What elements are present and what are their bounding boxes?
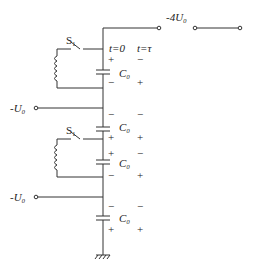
polarity-sign: − (137, 200, 143, 212)
polarity-sign: + (108, 53, 114, 65)
load-terminal-right (238, 26, 242, 30)
output-terminal (157, 26, 161, 30)
polarity-sign: + (108, 147, 114, 159)
ground-hatch (107, 255, 110, 259)
load-terminal-left (193, 26, 197, 30)
capacitor-label: C₀ (119, 212, 130, 224)
inductor-coil (55, 56, 58, 81)
polarity-sign: + (137, 131, 143, 143)
inductor-coil (55, 145, 58, 170)
ground-hatch (95, 255, 98, 259)
polarity-sign: + (137, 223, 143, 235)
polarity-sign: − (108, 200, 114, 212)
circuit-diagram: -4U₀ -U₀ -U₀ S₁ S₁ t=0 t=τ C₀ C₀ C₀ C₀ +… (0, 0, 253, 276)
ground-hatch (103, 255, 106, 259)
input-terminal (34, 195, 38, 199)
polarity-sign: − (137, 53, 143, 65)
input-voltage-label: -U₀ (10, 102, 26, 114)
capacitor-label: C₀ (119, 121, 130, 133)
input-voltage-label: -U₀ (10, 191, 26, 203)
polarity-sign: − (137, 147, 143, 159)
switch-label: S₁ (66, 124, 76, 136)
capacitor-label: C₀ (119, 157, 130, 169)
polarity-sign: − (108, 76, 114, 88)
switch-label: S₁ (66, 34, 76, 46)
output-voltage-label: -4U₀ (166, 11, 187, 23)
polarity-sign: + (108, 131, 114, 143)
polarity-sign: + (137, 169, 143, 181)
polarity-sign: + (108, 223, 114, 235)
polarity-sign: − (108, 169, 114, 181)
polarity-sign: + (137, 76, 143, 88)
polarity-sign: − (137, 108, 143, 120)
input-terminal (34, 106, 38, 110)
polarity-sign: − (108, 108, 114, 120)
ground-hatch (99, 255, 102, 259)
capacitor-label: C₀ (119, 67, 130, 79)
